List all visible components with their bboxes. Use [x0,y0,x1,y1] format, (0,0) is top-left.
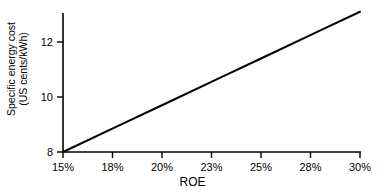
y-tick-label-10: 10 [31,92,53,103]
x-tick-label-28pct: 28% [291,162,331,173]
x-axis-ticks [63,152,360,158]
x-tick-label-15pct: 15% [43,162,83,173]
y-axis-ticks [57,42,63,152]
x-axis-title: ROE [0,176,385,189]
y-tick-label-8: 8 [31,147,53,158]
x-tick-label-25pct: 25% [241,162,281,173]
x-tick-label-30pct: 30% [340,162,380,173]
x-tick-label-18pct: 18% [93,162,133,173]
x-tick-label-23pct: 23% [192,162,232,173]
y-axis-title-line1: Specific energy cost [5,22,17,116]
data-series-line [63,12,360,152]
y-tick-label-12: 12 [31,37,53,48]
y-axis-title-line2: (US cents/kWh) [17,4,29,134]
y-axis-title: Specific energy cost (US cents/kWh) [5,4,29,134]
chart-figure: 12 10 8 15% 18% 20% 23% 25% 28% 30% Spec… [0,0,385,195]
x-tick-label-20pct: 20% [142,162,182,173]
